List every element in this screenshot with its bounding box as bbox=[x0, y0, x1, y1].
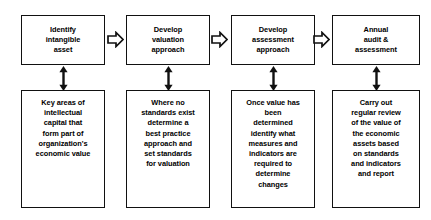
double-headed-vertical-arrow-icon-4 bbox=[372, 66, 381, 91]
block-arrow-right-icon-2 bbox=[211, 31, 228, 48]
process-box-label: Identify intangible asset bbox=[43, 25, 83, 56]
process-box-label: Annual audit & assessment bbox=[352, 25, 400, 56]
detail-box-label: Key areas of intellectual capital that f… bbox=[22, 98, 104, 159]
double-headed-vertical-arrow-icon-1 bbox=[59, 66, 68, 91]
double-headed-vertical-arrow-icon-3 bbox=[269, 66, 278, 91]
detail-box-label: Where no standards exist determine a bes… bbox=[127, 98, 209, 169]
detail-box-key-areas[interactable]: Key areas of intellectual capital that f… bbox=[21, 90, 105, 208]
detail-box-measures-indicators[interactable]: Once value has been determined identify … bbox=[231, 90, 315, 208]
process-box-identify-intangible-asset[interactable]: Identify intangible asset bbox=[21, 15, 105, 65]
block-arrow-right-icon-3 bbox=[313, 31, 330, 48]
process-box-develop-valuation-approach[interactable]: Develop valuation approach bbox=[126, 15, 210, 65]
flowchart-diagram: Identify intangible asset Key areas of i… bbox=[0, 0, 431, 220]
process-box-annual-audit-assessment[interactable]: Annual audit & assessment bbox=[332, 15, 420, 65]
detail-box-label: Carry out regular review of the value of… bbox=[333, 98, 419, 180]
detail-box-standards-valuation[interactable]: Where no standards exist determine a bes… bbox=[126, 90, 210, 208]
process-box-develop-assessment-approach[interactable]: Develop assessment approach bbox=[231, 15, 315, 65]
double-headed-vertical-arrow-icon-2 bbox=[164, 66, 173, 91]
process-box-label: Develop valuation approach bbox=[149, 25, 188, 56]
detail-box-label: Once value has been determined identify … bbox=[232, 98, 314, 190]
process-box-label: Develop assessment approach bbox=[249, 25, 297, 56]
block-arrow-right-icon-1 bbox=[107, 31, 124, 48]
detail-box-annual-review[interactable]: Carry out regular review of the value of… bbox=[332, 90, 420, 208]
